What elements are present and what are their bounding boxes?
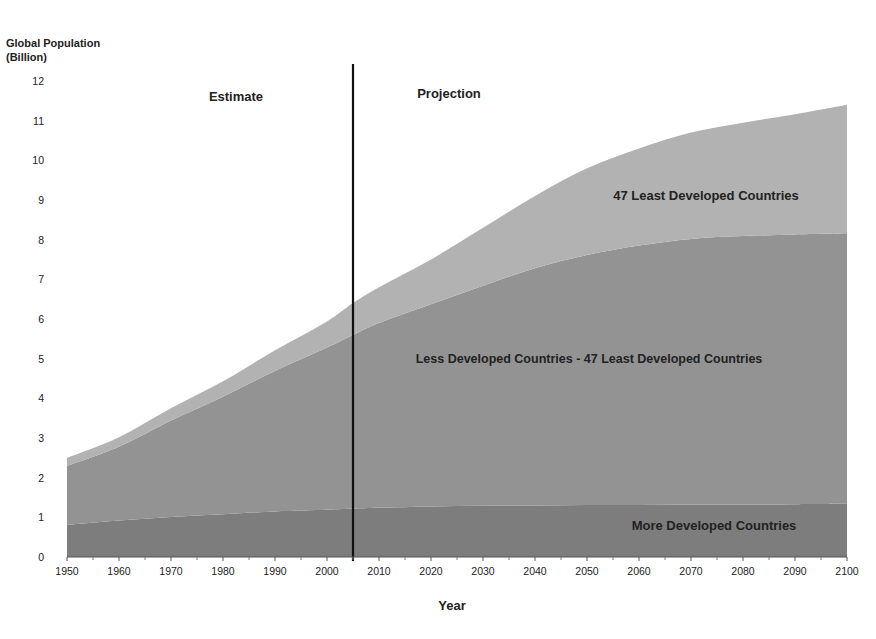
x-tick-label: 2090 bbox=[783, 565, 807, 577]
series-label-less-developed: Less Developed Countries - 47 Least Deve… bbox=[416, 352, 763, 366]
x-tick-label: 1960 bbox=[107, 565, 131, 577]
x-tick-label: 2000 bbox=[315, 565, 339, 577]
series-label-more-developed: More Developed Countries bbox=[632, 518, 797, 533]
population-area-chart: 1950196019701980199020002010202020302040… bbox=[0, 0, 876, 639]
x-tick-label: 2080 bbox=[731, 565, 755, 577]
estimate-label: Estimate bbox=[209, 89, 263, 104]
y-tick-label: 3 bbox=[38, 432, 44, 444]
x-axis: 1950196019701980199020002010202020302040… bbox=[55, 557, 859, 577]
x-tick-label: 1970 bbox=[159, 565, 183, 577]
y-tick-label: 6 bbox=[38, 313, 44, 325]
y-tick-label: 12 bbox=[32, 75, 44, 87]
projection-label: Projection bbox=[417, 86, 481, 101]
y-tick-label: 11 bbox=[33, 115, 44, 127]
y-tick-label: 4 bbox=[38, 392, 44, 404]
y-tick-label: 10 bbox=[32, 154, 44, 166]
x-tick-label: 2070 bbox=[679, 565, 703, 577]
x-axis-title: Year bbox=[438, 598, 465, 613]
x-tick-label: 2020 bbox=[419, 565, 443, 577]
x-tick-label: 2040 bbox=[523, 565, 547, 577]
x-tick-label: 2100 bbox=[835, 565, 859, 577]
x-tick-label: 2050 bbox=[575, 565, 599, 577]
y-axis-title-line2: (Billion) bbox=[6, 51, 47, 63]
x-tick-label: 1980 bbox=[211, 565, 235, 577]
y-tick-label: 0 bbox=[38, 551, 44, 563]
series-label-least-developed: 47 Least Developed Countries bbox=[613, 188, 799, 203]
y-tick-label: 2 bbox=[38, 472, 44, 484]
y-tick-label: 1 bbox=[38, 511, 44, 523]
y-tick-label: 8 bbox=[38, 234, 44, 246]
y-tick-label: 9 bbox=[38, 194, 44, 206]
y-tick-label: 5 bbox=[38, 353, 44, 365]
stacked-areas bbox=[67, 105, 847, 557]
y-axis: 0123456789101112 bbox=[32, 75, 44, 563]
x-tick-label: 2010 bbox=[367, 565, 391, 577]
x-tick-label: 1990 bbox=[263, 565, 287, 577]
x-tick-label: 1950 bbox=[55, 565, 79, 577]
y-axis-title-line1: Global Population bbox=[6, 37, 100, 49]
x-tick-label: 2060 bbox=[627, 565, 651, 577]
y-tick-label: 7 bbox=[38, 273, 44, 285]
x-tick-label: 2030 bbox=[471, 565, 495, 577]
